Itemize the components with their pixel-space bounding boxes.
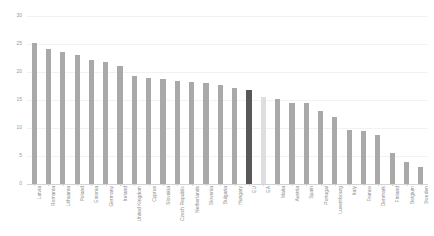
x-tick-label: Spain	[308, 186, 314, 199]
x-tick-mark	[149, 184, 150, 186]
x-tick-label: United Kingdom	[136, 186, 142, 222]
x-tick-label: Austria	[294, 186, 300, 202]
x-tick-label: Latvia	[36, 186, 42, 199]
bar	[332, 117, 337, 184]
x-tick-mark	[407, 184, 408, 186]
x-tick-mark	[421, 184, 422, 186]
bar	[232, 88, 237, 184]
bar	[304, 103, 309, 184]
bar	[418, 167, 423, 184]
y-tick-label: 10	[16, 125, 22, 130]
x-tick-label: Sweden	[423, 186, 429, 204]
bar	[75, 55, 80, 184]
bar	[390, 153, 395, 184]
bar	[117, 66, 122, 184]
x-tick-mark	[235, 184, 236, 186]
x-tick-mark	[77, 184, 78, 186]
x-tick-label: Hungary	[237, 186, 243, 205]
x-tick-label: Ireland	[122, 186, 128, 201]
bar	[347, 130, 352, 184]
bar	[404, 162, 409, 184]
bar	[203, 83, 208, 184]
bar	[132, 76, 137, 184]
x-tick-label: Romania	[50, 186, 56, 206]
x-tick-label: Germany	[108, 186, 114, 207]
x-tick-label: Belgium	[409, 186, 415, 204]
x-tick-label: Malta	[280, 186, 286, 198]
bar	[46, 49, 51, 184]
x-tick-label: Estonia	[93, 186, 99, 203]
bar	[103, 62, 108, 184]
bar-chart: 051015202530 LatviaRomaniaLithuaniaPolan…	[0, 0, 434, 236]
y-tick-label: 20	[16, 69, 22, 74]
x-tick-mark	[106, 184, 107, 186]
x-tick-label: Bulgaria	[222, 186, 228, 204]
x-tick-label: Denmark	[380, 186, 386, 206]
y-tick-label: 25	[16, 41, 22, 46]
y-tick-label: 30	[16, 13, 22, 18]
bar	[275, 99, 280, 184]
bar	[246, 90, 251, 184]
bar	[375, 135, 380, 184]
x-tick-label: Slovakia	[165, 186, 171, 205]
x-axis: LatviaRomaniaLithuaniaPolandEstoniaGerma…	[27, 186, 428, 236]
y-axis: 051015202530	[0, 0, 25, 236]
y-tick-label: 15	[16, 97, 22, 102]
bar	[261, 97, 266, 184]
y-tick-label: 5	[19, 153, 22, 158]
x-tick-label: Netherlands	[194, 186, 200, 213]
bar	[218, 85, 223, 184]
y-tick-label: 0	[19, 181, 22, 186]
bar	[289, 103, 294, 184]
bar	[175, 81, 180, 184]
x-tick-label: Finland	[394, 186, 400, 202]
x-tick-mark	[364, 184, 365, 186]
x-tick-mark	[120, 184, 121, 186]
bar	[60, 52, 65, 184]
x-tick-mark	[378, 184, 379, 186]
x-tick-label: Lithuania	[65, 186, 71, 206]
bar	[361, 131, 366, 184]
bar	[189, 82, 194, 184]
bar	[318, 111, 323, 184]
x-tick-mark	[63, 184, 64, 186]
x-tick-label: EU	[251, 186, 257, 193]
bar	[146, 78, 151, 184]
x-tick-label: Czech Republic	[179, 186, 185, 221]
x-tick-mark	[34, 184, 35, 186]
bars-layer	[27, 16, 428, 184]
x-tick-mark	[206, 184, 207, 186]
x-tick-mark	[163, 184, 164, 186]
x-tick-label: Portugal	[323, 186, 329, 205]
x-tick-label: EA	[265, 186, 271, 193]
x-tick-mark	[335, 184, 336, 186]
x-tick-label: France	[366, 186, 372, 202]
bar	[160, 79, 165, 184]
x-tick-mark	[292, 184, 293, 186]
x-tick-label: Italy	[351, 186, 357, 195]
x-tick-mark	[249, 184, 250, 186]
x-tick-label: Slovenia	[208, 186, 214, 205]
bar	[89, 60, 94, 184]
x-tick-label: Poland	[79, 186, 85, 202]
x-tick-label: Luxembourg	[337, 186, 343, 214]
bar	[32, 43, 37, 184]
x-tick-mark	[192, 184, 193, 186]
x-tick-mark	[321, 184, 322, 186]
x-tick-label: Cyprus	[151, 186, 157, 202]
x-tick-mark	[278, 184, 279, 186]
